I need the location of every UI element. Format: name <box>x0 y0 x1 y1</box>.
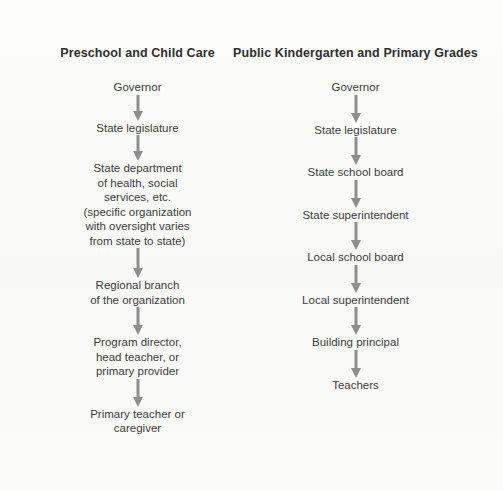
arrow-down-icon <box>132 379 144 407</box>
column-preschool-and-child-care: Preschool and Child Care Governor State … <box>34 46 242 491</box>
arrow-down-icon <box>350 137 362 165</box>
arrow-down-icon <box>132 95 144 121</box>
column-public-kindergarten-and-primary-grades: Public Kindergarten and Primary Grades G… <box>242 46 470 491</box>
arrow-down-icon <box>132 248 144 278</box>
node-left-5: Primary teacher or caregiver <box>90 407 185 436</box>
node-left-1: State legislature <box>96 121 178 136</box>
arrow-down-icon <box>132 135 144 161</box>
node-left-4: Program director, head teacher, or prima… <box>93 335 181 379</box>
column-header-left: Preschool and Child Care <box>60 46 215 60</box>
column-header-right: Public Kindergarten and Primary Grades <box>233 46 478 60</box>
arrow-down-icon <box>350 95 362 123</box>
arrow-down-icon <box>350 350 362 378</box>
node-right-1: State legislature <box>314 123 396 138</box>
node-right-6: Building principal <box>312 335 399 350</box>
arrow-down-icon <box>132 307 144 335</box>
arrow-down-icon <box>350 307 362 335</box>
node-right-4: Local school board <box>307 250 404 265</box>
node-right-2: State school board <box>308 165 404 180</box>
node-left-0: Governor <box>114 80 162 95</box>
node-right-0: Governor <box>332 80 380 95</box>
node-left-2: State department of health, social servi… <box>83 161 191 248</box>
node-right-5: Local superintendent <box>302 293 409 308</box>
node-right-7: Teachers <box>332 378 379 393</box>
arrow-down-icon <box>350 265 362 293</box>
arrow-down-icon <box>350 222 362 250</box>
node-right-3: State superintendent <box>302 208 408 223</box>
flowchart-diagram: Preschool and Child Care Governor State … <box>0 0 503 491</box>
node-left-3: Regional branch of the organization <box>90 278 185 307</box>
arrow-down-icon <box>350 180 362 208</box>
